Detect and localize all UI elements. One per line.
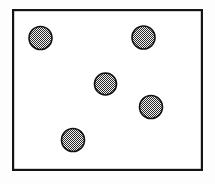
- figure-svg: [0, 0, 215, 184]
- circle-top-left: [29, 27, 52, 50]
- figure-canvas: [0, 0, 215, 184]
- circle-bottom-left: [62, 129, 85, 152]
- circle-top-right: [132, 26, 155, 49]
- circle-center: [95, 73, 117, 95]
- circle-right-middle: [140, 96, 163, 119]
